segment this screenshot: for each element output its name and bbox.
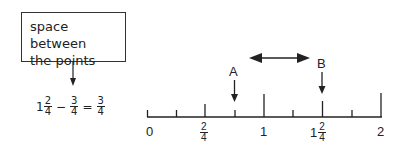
tick-label-2-4: 24: [200, 122, 208, 143]
double-arrow-left-icon: [249, 53, 262, 63]
arrow-b-icon: [319, 86, 326, 94]
arrow-a-icon: [231, 94, 238, 102]
fraction-result: 34: [97, 96, 105, 117]
arrow-down-icon: [70, 78, 76, 86]
equation-whole: 1: [36, 100, 44, 114]
fraction-2: 34: [70, 96, 78, 117]
equals-sign: =: [82, 100, 92, 114]
tick-label-0: 0: [146, 124, 153, 139]
tick-label-1-2-4: 1 24: [310, 122, 326, 143]
fraction-1: 24: [44, 96, 52, 117]
point-a-label: A: [229, 64, 238, 79]
minus-sign: −: [56, 100, 66, 114]
double-arrow-right-icon: [297, 53, 310, 63]
point-b-label: B: [317, 56, 326, 71]
tick-label-1: 1: [260, 124, 267, 139]
tick-label-2: 2: [377, 124, 384, 139]
equation: 1 24 − 34 = 34: [36, 96, 105, 117]
